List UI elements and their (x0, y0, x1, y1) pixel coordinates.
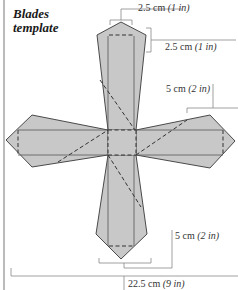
left-blade (6, 115, 108, 167)
page-title: Blades template (13, 7, 59, 35)
dimension-label-blade-bottom-width: 5 cm (2 in) (175, 230, 219, 241)
dimension-label-total-width: 22.5 cm (9 in) (128, 278, 185, 289)
dimension-label-tip-height: 2.5 cm (1 in) (165, 41, 217, 52)
dimension-label-blade-width: 5 cm (2 in) (166, 83, 210, 94)
right-blade (136, 115, 235, 168)
dimension-label-tip-width: 2.5 cm (1 in) (138, 2, 190, 13)
title-line-1: Blades (13, 7, 59, 21)
bottom-blade (96, 155, 147, 259)
center-square (108, 130, 136, 155)
cross-shape (6, 22, 235, 259)
title-line-2: template (13, 21, 59, 35)
top-blade (97, 22, 146, 130)
